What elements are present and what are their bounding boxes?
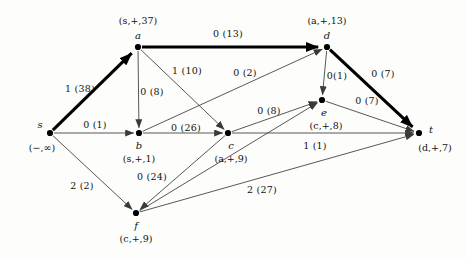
node-tag-s: (−,∞) xyxy=(29,142,55,153)
node-s[interactable] xyxy=(47,130,53,136)
edge-label-d-e: 0(1) xyxy=(327,70,347,81)
node-name-b: b xyxy=(136,140,142,151)
node-t[interactable] xyxy=(416,130,422,136)
edge-s-f xyxy=(53,136,132,210)
node-tag-a: (s,+,37) xyxy=(119,15,157,26)
node-tag-b: (s,+,1) xyxy=(123,153,155,164)
edge-label-b-d: 0 (2) xyxy=(233,67,257,78)
node-name-f: f xyxy=(134,220,138,231)
graph-canvas xyxy=(0,0,466,260)
flow-network-figure: 1 (38)0 (1)2 (2)0 (13)0 (8)1 (10)0 (26)0… xyxy=(0,0,466,260)
edge-label-s-b: 0 (1) xyxy=(83,119,107,130)
node-f[interactable] xyxy=(133,210,139,216)
node-name-e: e xyxy=(321,107,327,118)
node-name-c: c xyxy=(228,140,234,151)
node-a[interactable] xyxy=(135,44,141,50)
node-d[interactable] xyxy=(324,44,330,50)
edge-label-s-f: 2 (2) xyxy=(70,180,94,191)
edge-label-a-c: 1 (10) xyxy=(172,65,202,76)
node-e[interactable] xyxy=(319,97,325,103)
node-name-t: t xyxy=(429,124,433,135)
edge-label-f-t: 2 (27) xyxy=(247,184,277,195)
edge-label-a-d: 0 (13) xyxy=(213,28,243,39)
edge-b-d xyxy=(143,49,323,131)
node-name-s: s xyxy=(37,119,42,130)
node-tag-d: (a,+,13) xyxy=(307,15,346,26)
node-tag-f: (c,+,9) xyxy=(120,233,153,244)
node-tag-e: (c,+,8) xyxy=(310,120,343,131)
edge-label-s-a: 1 (38) xyxy=(65,83,95,94)
node-tag-c: (a,+,9) xyxy=(214,153,247,164)
edge-d-t xyxy=(330,50,413,127)
edge-label-c-t: 1 (1) xyxy=(303,140,327,151)
edge-label-c-e: 0 (8) xyxy=(257,105,281,116)
edge-label-e-t: 0 (7) xyxy=(355,95,379,106)
edge-label-d-t: 0 (7) xyxy=(371,68,395,79)
node-b[interactable] xyxy=(136,130,142,136)
node-name-a: a xyxy=(135,30,141,41)
edge-label-b-c: 0 (26) xyxy=(171,122,201,133)
node-name-d: d xyxy=(324,30,330,41)
edge-label-c-f: 0 (24) xyxy=(137,171,167,182)
edge-a-b xyxy=(138,51,139,128)
edge-label-a-b: 0 (8) xyxy=(140,86,164,97)
node-c[interactable] xyxy=(225,130,231,136)
node-tag-t: (d,+,7) xyxy=(418,142,452,153)
edge-f-t xyxy=(140,134,414,211)
